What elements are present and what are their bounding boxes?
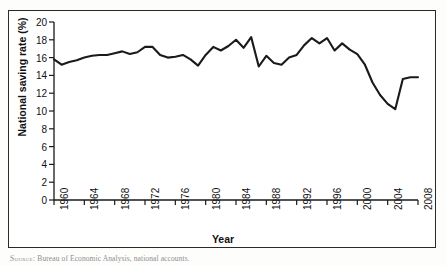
y-tick-label: 0 bbox=[25, 195, 47, 206]
y-tick-label: 12 bbox=[25, 88, 47, 99]
source-caption: Source: Bureau of Economic Analysis, nat… bbox=[10, 254, 190, 263]
y-tick-label: 18 bbox=[25, 35, 47, 46]
chart-frame: National saving rate (%) Year 0246810121… bbox=[8, 10, 436, 248]
x-tick-label: 1964 bbox=[89, 188, 100, 210]
source-prefix: Source: bbox=[10, 254, 35, 263]
y-tick-label: 2 bbox=[25, 177, 47, 188]
x-axis-label: Year bbox=[9, 233, 437, 245]
x-tick-label: 1960 bbox=[59, 188, 70, 210]
x-tick-label: 2000 bbox=[362, 188, 373, 210]
x-tick-label: 1984 bbox=[241, 188, 252, 210]
y-tick-label: 6 bbox=[25, 142, 47, 153]
x-tick-label: 1976 bbox=[180, 188, 191, 210]
y-tick-label: 4 bbox=[25, 159, 47, 170]
source-text: Bureau of Economic Analysis, national ac… bbox=[37, 254, 189, 263]
x-tick-label: 1972 bbox=[150, 188, 161, 210]
x-tick-label: 1968 bbox=[120, 188, 131, 210]
y-tick-label: 20 bbox=[25, 17, 47, 28]
x-tick-label: 1992 bbox=[302, 188, 313, 210]
x-tick-label: 2008 bbox=[423, 188, 434, 210]
x-tick-label: 1980 bbox=[211, 188, 222, 210]
x-tick-label: 1996 bbox=[332, 188, 343, 210]
x-tick-label: 1988 bbox=[271, 188, 282, 210]
y-tick-label: 10 bbox=[25, 106, 47, 117]
y-tick-label: 14 bbox=[25, 70, 47, 81]
y-tick-label: 16 bbox=[25, 53, 47, 64]
figure-container: National saving rate (%) Year 0246810121… bbox=[0, 0, 446, 266]
x-tick-label: 2004 bbox=[393, 188, 404, 210]
y-tick-label: 8 bbox=[25, 124, 47, 135]
